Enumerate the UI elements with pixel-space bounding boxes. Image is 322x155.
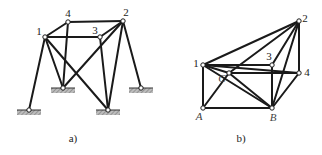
joint-label: 2 xyxy=(123,6,129,18)
joint-node xyxy=(121,19,125,23)
space-truss-diagram-a: 1234 a) xyxy=(17,6,153,145)
truss-member xyxy=(45,22,68,37)
truss-members xyxy=(29,21,141,110)
joint-label: 4 xyxy=(65,7,71,19)
joint-node xyxy=(61,86,65,90)
joint-node xyxy=(43,35,47,39)
ground-supports xyxy=(17,88,153,115)
joint-label: 1 xyxy=(193,57,199,69)
joint-node xyxy=(297,71,301,75)
joint-label: A xyxy=(195,110,203,122)
joint-node xyxy=(201,63,205,67)
joint-node xyxy=(27,108,31,112)
joint-label: B xyxy=(270,111,277,123)
joint-label: 1 xyxy=(36,25,42,37)
truss-member xyxy=(100,37,108,110)
truss-member xyxy=(63,22,68,88)
truss-member xyxy=(229,73,272,108)
joint-node xyxy=(66,20,70,24)
joint-node xyxy=(227,71,231,75)
truss-member xyxy=(123,21,141,88)
space-truss-diagram-b: 1234CAB b) xyxy=(193,12,310,145)
truss-figures: 1234 a) 1234CAB b) xyxy=(0,0,322,155)
truss-member xyxy=(45,37,63,88)
truss-member xyxy=(29,37,45,110)
joint-node xyxy=(270,63,274,67)
joint-label: C xyxy=(218,72,226,84)
joint-label: 4 xyxy=(304,66,310,78)
truss-member xyxy=(203,65,272,108)
figure-caption-a: a) xyxy=(69,132,78,145)
joint-node xyxy=(297,19,301,23)
truss-member xyxy=(68,21,123,22)
joint-label: 3 xyxy=(266,50,272,62)
joint-label: 2 xyxy=(302,12,308,24)
truss-member xyxy=(272,21,299,108)
joint-node xyxy=(98,35,102,39)
joint-label: 3 xyxy=(92,24,98,36)
truss-members xyxy=(203,21,299,108)
truss-member xyxy=(272,73,299,108)
joint-node xyxy=(139,86,143,90)
joint-node xyxy=(270,106,274,110)
joint-node xyxy=(106,108,110,112)
figure-caption-b: b) xyxy=(236,132,246,145)
